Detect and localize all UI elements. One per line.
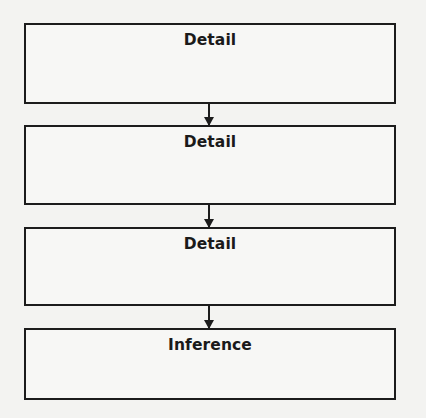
inference-box: Inference [24,328,396,400]
inference-box-label: Inference [26,336,394,354]
detail-box-2-label: Detail [26,133,394,151]
detail-box-1-label: Detail [26,31,394,49]
detail-box-3: Detail [24,227,396,306]
detail-box-1: Detail [24,23,396,104]
arrow-down-icon [208,205,210,227]
detail-box-2: Detail [24,125,396,205]
detail-box-3-label: Detail [26,235,394,253]
arrow-down-icon [208,306,210,328]
arrow-down-icon [208,104,210,125]
